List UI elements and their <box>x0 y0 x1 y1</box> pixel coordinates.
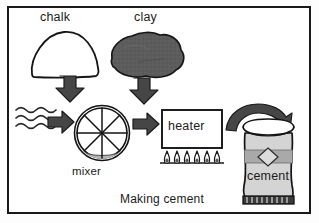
diagram-graphics <box>0 0 319 223</box>
clay-label: clay <box>134 10 157 24</box>
clay-blob-icon <box>111 32 183 77</box>
arrow-down-icon <box>130 78 158 104</box>
chalk-mound-icon <box>32 32 99 78</box>
figure-caption: Making cement <box>120 192 204 206</box>
cement-bag-icon <box>243 119 294 204</box>
heater-label: heater <box>168 119 205 133</box>
mixer-label: mixer <box>72 165 101 177</box>
diagram-canvas: chalk clay mixer heater cement Making ce… <box>0 0 319 223</box>
arrow-right-icon <box>48 111 74 133</box>
cement-bag-label: cement <box>247 169 289 183</box>
chalk-label: chalk <box>40 10 70 24</box>
arrow-down-icon <box>56 76 84 102</box>
arrow-right-icon <box>133 113 159 135</box>
flames-icon <box>160 151 224 163</box>
mixer-wheel-icon <box>75 106 130 161</box>
